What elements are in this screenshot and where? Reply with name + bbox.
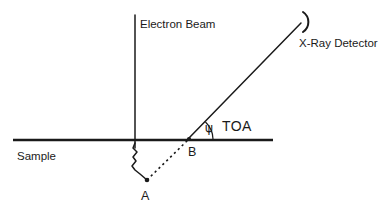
point-b-marker bbox=[187, 137, 191, 141]
sample-label: Sample bbox=[17, 151, 56, 163]
point-b-label: B bbox=[188, 146, 196, 159]
electron-beam-label: Electron Beam bbox=[140, 19, 215, 31]
toa-label: TOA bbox=[222, 119, 252, 133]
detector-aperture-arc-icon bbox=[303, 12, 308, 32]
xray-detector-label: X-Ray Detector bbox=[299, 38, 378, 50]
diagram-vector-layer bbox=[0, 0, 392, 213]
diagram-canvas: Electron Beam X-Ray Detector Sample ψ TO… bbox=[0, 0, 392, 213]
psi-angle-symbol-label: ψ bbox=[205, 122, 213, 134]
xray-emission-dashed-path bbox=[147, 139, 189, 180]
point-a-marker bbox=[145, 178, 150, 183]
point-a-label: A bbox=[141, 190, 149, 203]
electron-scattering-path bbox=[132, 143, 147, 180]
